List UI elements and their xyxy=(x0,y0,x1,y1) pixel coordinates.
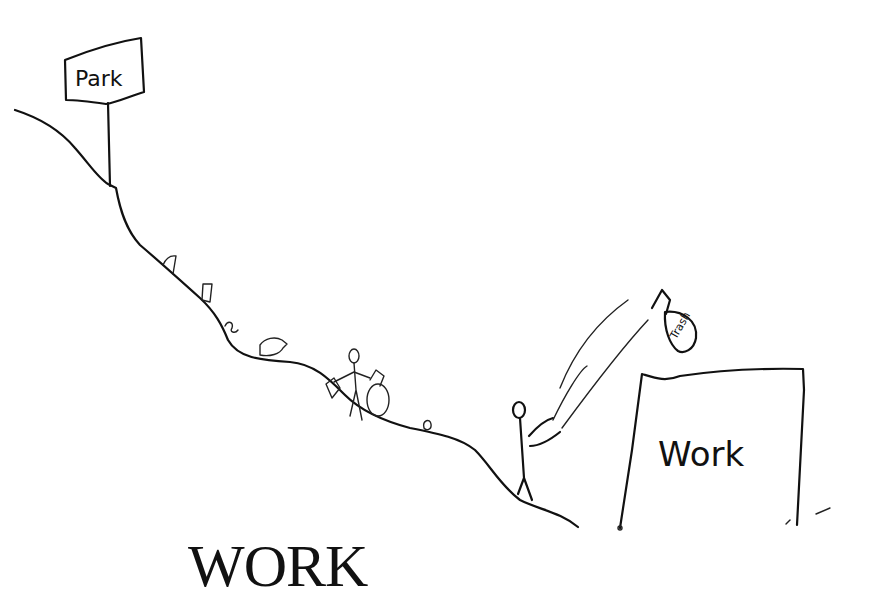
litter-items xyxy=(163,256,431,430)
trash-motion-lines xyxy=(553,300,648,428)
garbage-bag xyxy=(367,384,389,416)
hillside-slope xyxy=(15,110,578,527)
thrower-arm-lower xyxy=(530,432,560,446)
flying-trash-bag: Trash xyxy=(652,290,696,352)
person-head xyxy=(349,349,359,363)
motion-line-2 xyxy=(553,366,587,420)
litter-pebble xyxy=(424,421,431,430)
trash-bag-label: Trash xyxy=(667,310,693,343)
person-arms xyxy=(334,372,370,382)
trash-bag-knot xyxy=(652,290,670,314)
park-sign-label: Park xyxy=(75,66,123,91)
motion-line-1 xyxy=(560,300,628,388)
thrower-head xyxy=(513,402,525,418)
work-building: Work xyxy=(618,369,830,530)
park-sign: Park xyxy=(65,38,144,186)
person-body xyxy=(350,363,362,420)
caption-title: WORK xyxy=(188,536,367,596)
litter-wrapper xyxy=(225,322,238,332)
building-corner-mark xyxy=(786,520,790,524)
thrower-body xyxy=(518,418,532,500)
cartoon-illustration: Park Trash W xyxy=(0,0,886,602)
person-throwing-trash xyxy=(513,402,560,500)
litter-can xyxy=(202,284,212,302)
thrower-arm-upper xyxy=(529,418,553,436)
litter-cup xyxy=(260,338,287,356)
park-sign-post xyxy=(108,103,110,186)
motion-line-3 xyxy=(562,320,648,428)
ground-dash xyxy=(816,508,830,514)
work-building-label: Work xyxy=(658,434,744,474)
